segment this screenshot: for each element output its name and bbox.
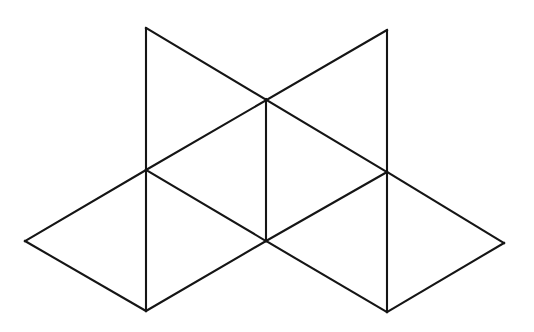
figure-canvas (0, 0, 534, 332)
edge-centerlower-bottomleft (146, 241, 266, 311)
edge-group (25, 28, 504, 312)
edge-centerlower-rightmiddle (266, 172, 387, 241)
geometric-figure (0, 0, 534, 332)
edge-rightmiddle-farright (387, 172, 504, 243)
edge-centerlower-bottomright (266, 241, 387, 312)
edge-farleft-bottomleft (25, 241, 146, 311)
edge-leftmiddle-farleft (25, 170, 146, 241)
edge-leftmiddle-centerlower (146, 170, 266, 241)
edge-farright-bottomright (387, 243, 504, 312)
vertex-group (22, 25, 507, 315)
